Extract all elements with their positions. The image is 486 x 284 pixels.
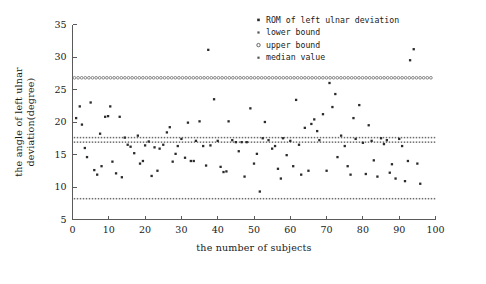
ref-marker: [353, 141, 355, 143]
ref-marker: [131, 141, 133, 143]
data-point: [407, 160, 409, 162]
data-point: [310, 123, 312, 125]
ref-marker: [320, 141, 322, 143]
data-point: [409, 59, 411, 61]
data-point: [219, 166, 221, 168]
ref-marker: [170, 141, 172, 143]
ref-marker: [221, 137, 223, 139]
legend-marker-bound-icon: [257, 57, 259, 59]
x-tick-label: 10: [103, 224, 115, 235]
ref-marker: [257, 76, 260, 79]
ref-marker: [332, 76, 335, 79]
ref-marker: [196, 76, 199, 79]
ref-marker: [134, 141, 136, 143]
data-point: [235, 141, 237, 143]
ref-marker: [236, 198, 238, 200]
ref-marker: [140, 141, 142, 143]
ref-marker: [272, 198, 274, 200]
data-point: [259, 190, 261, 192]
ref-marker: [365, 198, 367, 200]
data-point: [331, 106, 333, 108]
ref-marker: [386, 137, 388, 139]
ref-marker: [407, 137, 409, 139]
ref-marker: [80, 76, 83, 79]
ref-marker: [248, 198, 250, 200]
data-point: [231, 139, 233, 141]
ref-marker: [182, 198, 184, 200]
data-point: [158, 148, 160, 150]
ref-marker: [358, 76, 361, 79]
y-tick-label: 20: [54, 116, 66, 127]
ref-marker: [266, 141, 268, 143]
ref-marker: [200, 141, 202, 143]
ref-marker: [131, 198, 133, 200]
ref-marker: [299, 141, 301, 143]
ref-marker: [146, 198, 148, 200]
y-axis-title-line1: the angle of left ulnar: [13, 67, 24, 177]
data-point: [209, 144, 211, 146]
data-point: [115, 172, 117, 174]
ref-marker: [263, 198, 265, 200]
ref-marker: [305, 198, 307, 200]
legend-marker-upper-bound-icon: [257, 43, 260, 46]
data-point: [298, 144, 300, 146]
ref-marker: [224, 141, 226, 143]
ref-marker: [191, 141, 193, 143]
legend-label: lower bound: [266, 27, 320, 37]
ref-marker: [329, 137, 331, 139]
data-point: [292, 165, 294, 167]
ref-marker: [224, 137, 226, 139]
data-point: [153, 146, 155, 148]
ref-marker: [163, 76, 166, 79]
ref-marker: [251, 198, 253, 200]
ref-marker: [412, 76, 415, 79]
ref-marker: [215, 137, 217, 139]
ref-marker: [415, 76, 418, 79]
data-point: [129, 146, 131, 148]
data-point: [391, 163, 393, 165]
x-tick-label: 60: [284, 224, 296, 235]
ref-marker: [257, 141, 259, 143]
ref-marker: [407, 198, 409, 200]
data-point: [286, 154, 288, 156]
data-point: [246, 141, 248, 143]
legend-item-0: ROM of left ulnar deviation: [257, 15, 399, 25]
ref-marker: [329, 141, 331, 143]
ref-marker: [149, 76, 152, 79]
ref-marker: [119, 137, 121, 139]
ref-marker: [425, 198, 427, 200]
ref-marker: [155, 198, 157, 200]
ref-marker: [152, 141, 154, 143]
ref-marker: [320, 198, 322, 200]
data-point: [370, 140, 372, 142]
data-point: [419, 183, 421, 185]
ref-marker: [179, 198, 181, 200]
ref-marker: [95, 76, 98, 79]
ref-marker: [152, 198, 154, 200]
ref-marker: [212, 198, 214, 200]
ref-marker: [194, 198, 196, 200]
ref-marker: [161, 137, 163, 139]
ref-marker: [124, 76, 127, 79]
ref-marker: [197, 198, 199, 200]
ref-marker: [215, 198, 217, 200]
data-point: [119, 116, 121, 118]
ref-marker: [248, 137, 250, 139]
ref-marker: [278, 76, 281, 79]
ref-marker: [380, 141, 382, 143]
ref-marker: [127, 76, 130, 79]
ref-marker: [347, 198, 349, 200]
ref-marker: [137, 141, 139, 143]
ref-marker: [362, 137, 364, 139]
ref-marker: [149, 198, 151, 200]
ref-marker: [140, 198, 142, 200]
ref-marker: [317, 137, 319, 139]
ref-marker: [152, 76, 155, 79]
ref-marker: [119, 141, 121, 143]
ref-marker: [191, 198, 193, 200]
ref-marker: [354, 76, 357, 79]
ref-marker: [326, 137, 328, 139]
data-point: [100, 165, 102, 167]
ref-marker: [239, 137, 241, 139]
ref-marker: [164, 198, 166, 200]
